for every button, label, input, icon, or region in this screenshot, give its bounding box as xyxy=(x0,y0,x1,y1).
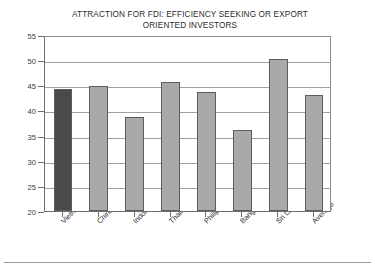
bar-chart-figure: ATTRACTION FOR FDI: EFFICIENCY SEEKING O… xyxy=(0,0,375,279)
y-axis-tick-label: 25 xyxy=(10,183,36,192)
y-axis-tick xyxy=(38,212,44,213)
bar-average xyxy=(305,95,324,211)
bottom-divider xyxy=(4,262,371,263)
chart-title: ATTRACTION FOR FDI: EFFICIENCY SEEKING O… xyxy=(40,9,340,31)
y-axis-tick-label: 35 xyxy=(10,133,36,142)
bar-sri-lanka xyxy=(269,59,288,211)
plot-area xyxy=(44,36,331,212)
bar-indonesia xyxy=(125,117,144,211)
y-axis-tick-label: 55 xyxy=(10,32,36,41)
chart-title-line-1: ATTRACTION FOR FDI: EFFICIENCY SEEKING O… xyxy=(40,9,340,20)
y-axis-tick-label: 45 xyxy=(10,82,36,91)
bar-philippines xyxy=(197,92,216,211)
bar-bangladesh xyxy=(233,130,252,211)
y-axis-tick-label: 40 xyxy=(10,107,36,116)
y-axis-tick-label: 50 xyxy=(10,57,36,66)
y-axis-tick-label: 20 xyxy=(10,208,36,217)
bar-vietnam xyxy=(54,89,73,211)
bar-thailand xyxy=(161,82,180,211)
bar-china xyxy=(89,86,108,211)
y-axis-tick-label: 30 xyxy=(10,158,36,167)
chart-title-line-2: ORIENTED INVESTORS xyxy=(40,20,340,31)
